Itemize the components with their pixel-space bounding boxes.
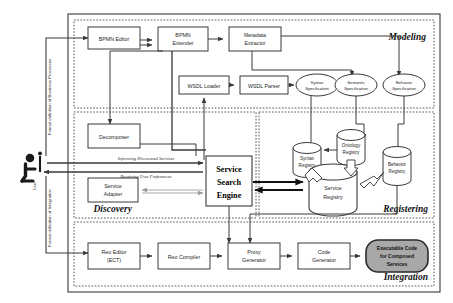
vertical-label-business-processes: Formal definition of Business Processes <box>47 59 52 135</box>
node-wsdl-parser-label: WSDL Parser <box>248 83 280 89</box>
node-ontology-registry-label2: Registry <box>343 150 361 155</box>
edge-extender-search <box>172 51 206 150</box>
node-service-search-engine-label3: Engine <box>217 191 242 200</box>
vertical-label-integration: Formal definition of Integration <box>47 188 52 247</box>
node-behavior-registry-label1: Behavior <box>388 162 407 167</box>
user-actor <box>22 152 42 181</box>
flow-label-receiving-preferences: Receiving User Preferences <box>120 174 172 179</box>
phase-label-discovery: Discovery <box>92 204 132 214</box>
phase-label-modeling: Modeling <box>388 32 427 42</box>
node-bpmn-editor-label: BPMN Editor <box>99 36 130 42</box>
edge-metadata-semantic-spec <box>252 51 352 76</box>
actor-label: User <box>32 181 37 190</box>
diagram-canvas: Modeling Discovery Registering Integrati… <box>0 0 453 303</box>
node-metadata-extractor-label1: Metadata <box>244 32 266 38</box>
node-syntax-specification-label2: Specification <box>305 86 329 91</box>
edge-extender-decomposer <box>110 51 163 124</box>
node-executable-code-label3: Services <box>387 261 408 267</box>
node-semantic-specification-label2: Specification <box>344 86 368 91</box>
flow-integration-definition <box>46 176 88 253</box>
node-semantic-specification-label1: Semantic <box>347 80 364 85</box>
node-service-search-engine-label1: Service <box>216 165 242 174</box>
node-executable-code-label1: Executable Code <box>377 245 418 251</box>
node-ontology-registry-label1: Ontology <box>342 143 361 148</box>
node-behavior-registry-label2: Registry <box>389 169 407 174</box>
edge-behavior-service-block <box>360 172 384 188</box>
node-reo-editor-label2: (ECT) <box>107 257 121 263</box>
node-proxy-generator-label2: Generator <box>242 257 266 263</box>
node-reo-compiler-label: Reo Compiler <box>168 254 201 260</box>
node-behavior-specification-label2: Specification <box>392 86 416 91</box>
node-wsdl-loader-label: WSDL Loader <box>187 83 220 89</box>
node-code-generator-label2: Generator <box>312 257 336 263</box>
node-syntax-specification-label1: Syntax <box>311 80 325 85</box>
node-reo-editor-label1: Reo Editor <box>101 249 126 255</box>
architecture-diagram: Modeling Discovery Registering Integrati… <box>0 0 453 303</box>
node-decomposer-label: Decomposer <box>99 134 129 140</box>
node-service-adapter-label1: Service <box>104 183 122 189</box>
edge-behaviorspec-behaviorreg <box>398 96 404 152</box>
node-service-registry-label1: Service <box>324 185 342 191</box>
node-service-registry-label2: Registry <box>323 194 343 200</box>
node-behavior-specification-label1: Behavior <box>396 80 413 85</box>
node-service-search-engine-label2: Search <box>217 178 241 187</box>
node-executable-code-label2: for Composed <box>380 253 414 259</box>
flow-label-informing-discovered: Informing Discovered Services <box>117 156 175 161</box>
node-syntax-registry-label1: Syntax <box>300 156 315 161</box>
node-service-adapter-label2: Adapter <box>104 191 123 197</box>
phase-label-integration: Integration <box>383 272 428 282</box>
node-bpmn-extender-label1: BPMN <box>175 32 190 38</box>
node-metadata-extractor-label2: Extractor <box>244 40 265 46</box>
node-bpmn-extender-label2: Extender <box>172 40 193 46</box>
node-proxy-generator-label1: Proxy <box>247 249 261 255</box>
phase-label-registering: Registering <box>382 204 428 214</box>
node-code-generator-label1: Code <box>318 249 331 255</box>
flow-business-processes <box>46 38 88 156</box>
